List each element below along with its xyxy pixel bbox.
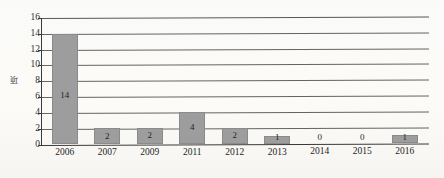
bar-value-label: 2 xyxy=(105,132,110,141)
y-axis-tick-labels: 0246810121416 xyxy=(22,0,40,178)
gridline xyxy=(41,16,428,19)
bar-value-label: 1 xyxy=(403,133,408,142)
x-axis-tick-label: 2007 xyxy=(87,148,127,158)
bar xyxy=(52,34,78,145)
x-axis-tick-label: 2009 xyxy=(130,148,170,158)
y-axis-title: 项 xyxy=(11,76,19,84)
bar-value-label-zero: 0 xyxy=(318,133,323,142)
gridline xyxy=(41,111,428,114)
bar-value-label-zero: 0 xyxy=(360,133,365,142)
gridline xyxy=(41,95,428,98)
bar-value-label: 4 xyxy=(190,123,195,132)
x-axis-tick-label: 2013 xyxy=(257,148,297,158)
gridline xyxy=(41,32,428,35)
x-axis-tick-label: 2015 xyxy=(342,147,382,157)
bar-value-label: 14 xyxy=(60,91,69,100)
x-axis-tick-label: 2016 xyxy=(385,147,425,157)
gridline xyxy=(41,48,428,51)
bar-chart: 项 0246810121416 1422421001 2006200720092… xyxy=(0,0,444,178)
bar-value-label: 1 xyxy=(275,133,280,142)
bar-value-label: 2 xyxy=(233,131,238,140)
x-axis-tick-label: 2006 xyxy=(45,148,85,158)
y-axis-line xyxy=(41,18,42,145)
gridline xyxy=(41,64,428,67)
x-axis-tick-label: 2012 xyxy=(215,148,255,158)
bar-value-label: 2 xyxy=(148,131,153,140)
x-axis-tick-label: 2014 xyxy=(300,147,340,157)
gridline xyxy=(41,80,428,83)
x-axis-tick-label: 2011 xyxy=(172,148,212,158)
